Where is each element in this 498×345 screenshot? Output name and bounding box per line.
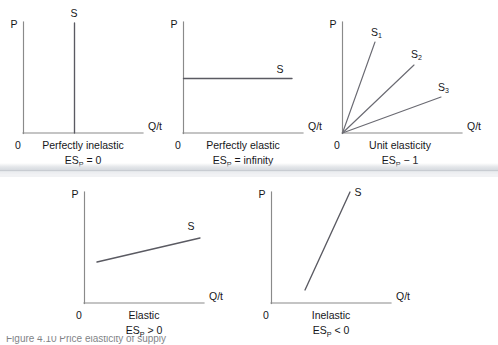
panel-title: Unit elasticity [369, 139, 432, 151]
s3-base: S [438, 81, 445, 93]
s1-base: S [371, 26, 378, 38]
supply-curve-label: S [354, 186, 361, 198]
origin-label: 0 [263, 309, 269, 321]
origin-label: 0 [175, 139, 181, 151]
panel-title: Inelastic [312, 309, 351, 321]
s2-base: S [411, 48, 418, 60]
formula-lead: ES [313, 324, 327, 336]
panel-title: Elastic [129, 309, 160, 321]
supply-curve-label-s2: S2 [411, 48, 422, 61]
panel-formula: ESP = infinity [213, 154, 274, 169]
panel-formula: ESP = 0 [65, 154, 102, 169]
s1-subscript: 1 [378, 32, 382, 39]
formula-tail: = infinity [232, 154, 274, 166]
origin-label: 0 [15, 139, 21, 151]
y-axis-label: P [10, 18, 17, 30]
x-axis-label: Q/t [148, 120, 162, 132]
y-axis-label: P [71, 188, 78, 200]
formula-tail: > 0 [145, 324, 163, 336]
supply-curve-s [97, 238, 200, 262]
panel-formula: ESP > 0 [126, 324, 163, 339]
supply-curve-s2 [343, 65, 415, 133]
supply-curve-s [305, 192, 350, 290]
panel-elastic: P Q/t 0 S Elastic ESP > 0 [71, 188, 223, 339]
formula-lead: ES [126, 324, 140, 336]
panel-formula: ESP − 1 [382, 154, 419, 169]
panel-inelastic: P Q/t 0 S Inelastic ESP < 0 [258, 186, 410, 339]
origin-label: 0 [334, 139, 340, 151]
x-axis-label: Q/t [467, 120, 481, 132]
panel-formula: ESP < 0 [313, 324, 350, 339]
supply-curve-label-s1: S1 [371, 26, 382, 39]
y-axis-label: P [170, 18, 177, 30]
supply-curve-s1 [343, 42, 376, 133]
supply-curve-label-s3: S3 [438, 81, 449, 94]
x-axis-label: Q/t [209, 290, 223, 302]
formula-lead: ES [65, 154, 79, 166]
panel-perfectly-inelastic: P Q/t 0 S Perfectly inelastic ESP = 0 [10, 7, 162, 169]
s3-subscript: 3 [445, 87, 449, 94]
y-axis-label: P [329, 18, 336, 30]
y-axis-label: P [258, 188, 265, 200]
panel-title: Perfectly inelastic [42, 139, 124, 151]
panel-unit-elasticity: P Q/t 0 S1 S2 S3 Unit elasticity ESP − 1 [329, 18, 481, 169]
formula-lead: ES [382, 154, 396, 166]
s2-subscript: 2 [418, 54, 422, 61]
formula-lead: ES [213, 154, 227, 166]
supply-curve-label: S [70, 7, 77, 19]
formula-tail: = 0 [84, 154, 102, 166]
supply-curve-label: S [187, 220, 194, 232]
supply-curve-label: S [276, 63, 283, 75]
origin-label: 0 [76, 309, 82, 321]
supply-elasticity-figure: P Q/t 0 S Perfectly inelastic ESP = 0 P … [0, 0, 498, 345]
x-axis-label: Q/t [308, 120, 322, 132]
formula-tail: − 1 [401, 154, 419, 166]
figure-canvas: P Q/t 0 S Perfectly inelastic ESP = 0 P … [0, 0, 498, 345]
supply-curve-s3 [343, 97, 442, 133]
x-axis-label: Q/t [396, 290, 410, 302]
formula-tail: < 0 [332, 324, 350, 336]
panel-perfectly-elastic: P Q/t 0 S Perfectly elastic ESP = infini… [170, 18, 322, 169]
panel-title: Perfectly elastic [206, 139, 280, 151]
